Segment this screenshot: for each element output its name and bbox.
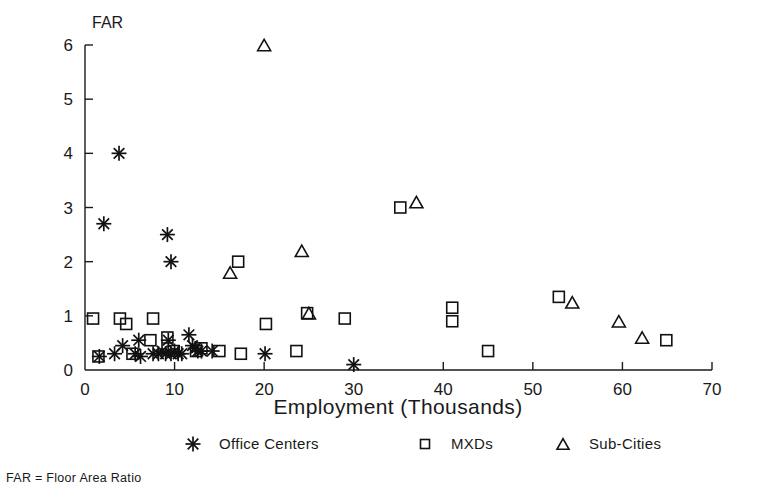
marker-asterisk bbox=[115, 338, 130, 353]
marker-asterisk bbox=[181, 327, 196, 342]
marker-square bbox=[447, 316, 458, 327]
y-tick-label: 4 bbox=[64, 144, 73, 163]
series-mxds bbox=[88, 202, 672, 362]
marker-asterisk bbox=[346, 357, 361, 372]
y-axis-label: FAR bbox=[92, 14, 123, 31]
marker-triangle bbox=[636, 332, 649, 343]
y-tick-label: 2 bbox=[64, 253, 73, 272]
marker-triangle bbox=[258, 39, 271, 50]
legend-item-label: Sub-Cities bbox=[589, 435, 661, 452]
marker-asterisk bbox=[160, 227, 175, 242]
marker-square bbox=[553, 291, 564, 302]
y-tick-label: 5 bbox=[64, 90, 73, 109]
marker-square bbox=[233, 256, 244, 267]
chart-legend: Office CentersMXDsSub-Cities bbox=[186, 435, 662, 452]
marker-square bbox=[421, 440, 430, 449]
marker-asterisk bbox=[96, 216, 111, 231]
x-tick-label: 50 bbox=[523, 380, 542, 399]
marker-asterisk bbox=[186, 437, 201, 452]
x-tick-label: 0 bbox=[80, 380, 89, 399]
marker-asterisk bbox=[258, 346, 273, 361]
marker-asterisk bbox=[131, 333, 146, 348]
footnote: FAR = Floor Area Ratio bbox=[6, 471, 141, 485]
legend-item-label: MXDs bbox=[451, 435, 493, 452]
x-tick-label: 70 bbox=[703, 380, 722, 399]
series-office-centers bbox=[92, 146, 361, 372]
marker-asterisk bbox=[174, 346, 189, 361]
marker-triangle bbox=[224, 267, 237, 278]
series-sub-cities bbox=[224, 39, 649, 343]
marker-triangle bbox=[566, 297, 579, 308]
marker-square bbox=[483, 346, 494, 357]
y-tick-label: 1 bbox=[64, 307, 73, 326]
marker-asterisk bbox=[163, 254, 178, 269]
chart-svg: 0123456 010203040506070 FAR Employment (… bbox=[0, 0, 774, 500]
x-tick-label: 20 bbox=[255, 380, 274, 399]
x-tick-label: 10 bbox=[165, 380, 184, 399]
marker-triangle bbox=[557, 439, 569, 450]
marker-triangle bbox=[612, 316, 625, 327]
marker-square bbox=[148, 313, 159, 324]
chart-axes bbox=[85, 45, 712, 370]
x-axis-title: Employment (Thousands) bbox=[273, 395, 522, 418]
marker-square bbox=[395, 202, 406, 213]
marker-square bbox=[291, 346, 302, 357]
y-axis-ticks: 0123456 bbox=[64, 36, 93, 380]
y-tick-label: 0 bbox=[64, 361, 73, 380]
marker-triangle bbox=[295, 245, 308, 256]
x-tick-label: 60 bbox=[613, 380, 632, 399]
marker-square bbox=[145, 335, 156, 346]
marker-triangle bbox=[302, 307, 315, 318]
marker-square bbox=[260, 318, 271, 329]
y-tick-label: 6 bbox=[64, 36, 73, 55]
marker-square bbox=[447, 302, 458, 313]
marker-square bbox=[661, 335, 672, 346]
marker-square bbox=[88, 313, 99, 324]
marker-asterisk bbox=[112, 146, 127, 161]
marker-square bbox=[339, 313, 350, 324]
data-point-layer bbox=[88, 39, 672, 372]
y-tick-label: 3 bbox=[64, 199, 73, 218]
marker-asterisk bbox=[133, 349, 148, 364]
x-axis-ticks: 010203040506070 bbox=[80, 362, 721, 399]
scatter-chart-figure: 0123456 010203040506070 FAR Employment (… bbox=[0, 0, 774, 500]
legend-item-label: Office Centers bbox=[219, 435, 319, 452]
marker-square bbox=[235, 348, 246, 359]
marker-triangle bbox=[410, 196, 423, 207]
